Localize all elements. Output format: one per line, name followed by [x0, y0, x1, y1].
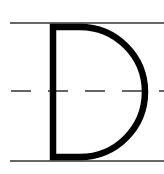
letter-practice-figure: D — [0, 0, 164, 174]
letter-d-shape — [53, 27, 145, 157]
